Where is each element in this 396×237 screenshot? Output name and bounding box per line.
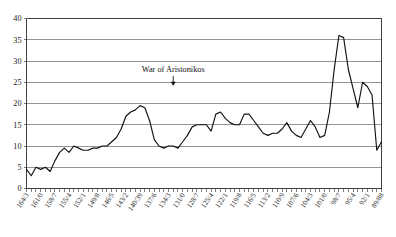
y-tick-label: 10 (13, 142, 21, 151)
x-tick-label: 164/3 (15, 191, 31, 209)
data-series (27, 36, 382, 176)
x-tick-label: 89/88 (370, 191, 386, 209)
y-tick-label: 25 (13, 78, 21, 87)
chart-canvas: 0510152025303540 164/3161/0158/7155/4152… (0, 0, 396, 237)
x-tick-label: 116/5 (242, 191, 258, 209)
x-tick-label: 101/0 (313, 191, 329, 209)
x-tick-label: 146/5 (100, 191, 116, 209)
x-tick-label: 125/4 (200, 191, 216, 209)
x-tick-label: 98/7 (329, 191, 343, 206)
x-tick-label: 113/2 (257, 191, 273, 209)
x-tick-label: 122/1 (214, 191, 230, 209)
x-tick-label: 104/3 (299, 191, 315, 209)
y-tick-label: 35 (13, 36, 21, 45)
y-tick-label: 40 (13, 14, 21, 23)
x-tick-label: 95/4 (344, 191, 358, 206)
x-tick-label: 152/1 (72, 191, 88, 209)
x-tick-label: 119/8 (228, 191, 244, 209)
y-tick-label: 5 (17, 163, 21, 172)
x-tick-label: 149/8 (86, 191, 102, 209)
y-tick-label: 20 (13, 99, 21, 108)
x-tick-label: 161/0 (29, 191, 45, 209)
x-tick-label: 110/9 (271, 191, 287, 209)
y-tick-label: 0 (17, 184, 21, 193)
y-axis-tick-labels: 0510152025303540 (13, 14, 21, 193)
x-axis-tick-labels: 164/3161/0158/7155/4152/1149/8146/5143/2… (15, 191, 386, 212)
x-tick-label: 158/7 (43, 191, 59, 209)
x-tick-label: 137/6 (143, 191, 159, 209)
line-chart-figure: 0510152025303540 164/3161/0158/7155/4152… (0, 0, 396, 237)
series-line-path (27, 36, 382, 176)
y-tick-label: 30 (13, 57, 21, 66)
x-tick-label: 107/6 (285, 191, 301, 209)
x-tick-label: 131/0 (171, 191, 187, 209)
x-tick-label: 134/3 (157, 191, 173, 209)
annotation-label: War of Aristonikos (142, 65, 205, 74)
x-tick-label: 155/4 (58, 191, 74, 209)
x-tick-label: 140/39 (127, 191, 145, 212)
annotation-arrow-head-icon (171, 82, 175, 85)
y-tick-label: 15 (13, 121, 21, 130)
x-tick-label: 128/7 (185, 191, 201, 209)
